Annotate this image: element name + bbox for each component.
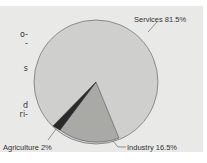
agriculture-leader-line (48, 129, 56, 140)
label-agriculture: Agriculture 2% (3, 143, 52, 152)
label-services: Services 81.5% (134, 15, 186, 24)
pie-chart: Services 81.5% Industry 16.5% Agricultur… (0, 0, 207, 163)
label-industry: Industry 16.5% (127, 143, 177, 152)
industry-leader-line (113, 141, 126, 147)
